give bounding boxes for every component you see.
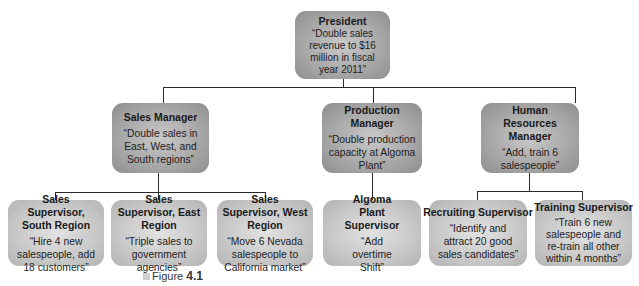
east-supervisor-box: Sales Supervisor, East Region “Triple sa… <box>111 200 207 266</box>
connector-hr-supervisors-bus <box>477 191 582 192</box>
east-supervisor-title: Sales Supervisor, East Region <box>116 193 202 232</box>
production-manager-title: Production Manager <box>327 104 417 130</box>
recruiting-supervisor-box: Recruiting Supervisor “Identify and attr… <box>429 200 527 266</box>
connector-president-down <box>343 78 344 87</box>
recruiting-supervisor-title: Recruiting Supervisor <box>423 206 533 219</box>
hr-manager-box: Human Resources Manager “Add, train 6 sa… <box>481 103 579 173</box>
south-supervisor-box: Sales Supervisor, South Region “Hire 4 n… <box>8 200 104 266</box>
president-box: President “Double sales revenue to $16 m… <box>295 11 390 79</box>
connector-to-sales-manager <box>163 87 164 103</box>
hr-manager-goal: “Add, train 6 salespeople” <box>486 146 574 172</box>
sales-manager-box: Sales Manager “Double sales in East, Wes… <box>112 103 209 173</box>
connector-to-hr-manager <box>575 87 576 103</box>
figure-caption-prefix: Figure <box>152 270 183 282</box>
algoma-supervisor-goal: “Add overtime Shift” <box>328 235 416 274</box>
connector-hr-manager-down <box>529 172 530 191</box>
south-supervisor-goal: “Hire 4 new salespeople, add 18 customer… <box>13 235 99 274</box>
recruiting-supervisor-goal: “Identify and attract 20 good sales cand… <box>434 222 522 261</box>
president-title: President <box>319 15 367 28</box>
connector-to-production-manager <box>373 87 374 103</box>
east-supervisor-goal: “Triple sales to government agencies” <box>116 235 202 274</box>
algoma-supervisor-title: Algoma Plant Supervisor <box>328 193 416 232</box>
figure-caption: Figure 4.1 <box>143 269 203 283</box>
connector-managers-bus <box>163 87 575 88</box>
sales-manager-goal: “Double sales in East, West, and South r… <box>117 127 204 166</box>
training-supervisor-title: Training Supervisor <box>534 201 633 214</box>
sales-manager-title: Sales Manager <box>124 111 198 124</box>
west-supervisor-box: Sales Supervisor, West Region “Move 6 Ne… <box>217 200 313 266</box>
west-supervisor-goal: “Move 6 Nevada salespeople to California… <box>222 235 308 274</box>
west-supervisor-title: Sales Supervisor, West Region <box>222 193 308 232</box>
connector-sales-manager-down <box>158 172 159 193</box>
south-supervisor-title: Sales Supervisor, South Region <box>13 193 99 232</box>
training-supervisor-goal: “Train 6 new salespeople and re-train al… <box>540 217 627 265</box>
algoma-supervisor-box: Algoma Plant Supervisor “Add overtime Sh… <box>323 200 421 266</box>
production-manager-goal: “Double production capacity at Algoma Pl… <box>327 133 417 172</box>
hr-manager-title: Human Resources Manager <box>486 104 574 143</box>
production-manager-box: Production Manager “Double production ca… <box>322 103 422 173</box>
figure-caption-number: 4.1 <box>186 269 203 283</box>
president-goal: “Double sales revenue to $16 million in … <box>300 28 385 76</box>
caption-square-icon <box>143 273 150 280</box>
training-supervisor-box: Training Supervisor “Train 6 new salespe… <box>535 200 632 266</box>
